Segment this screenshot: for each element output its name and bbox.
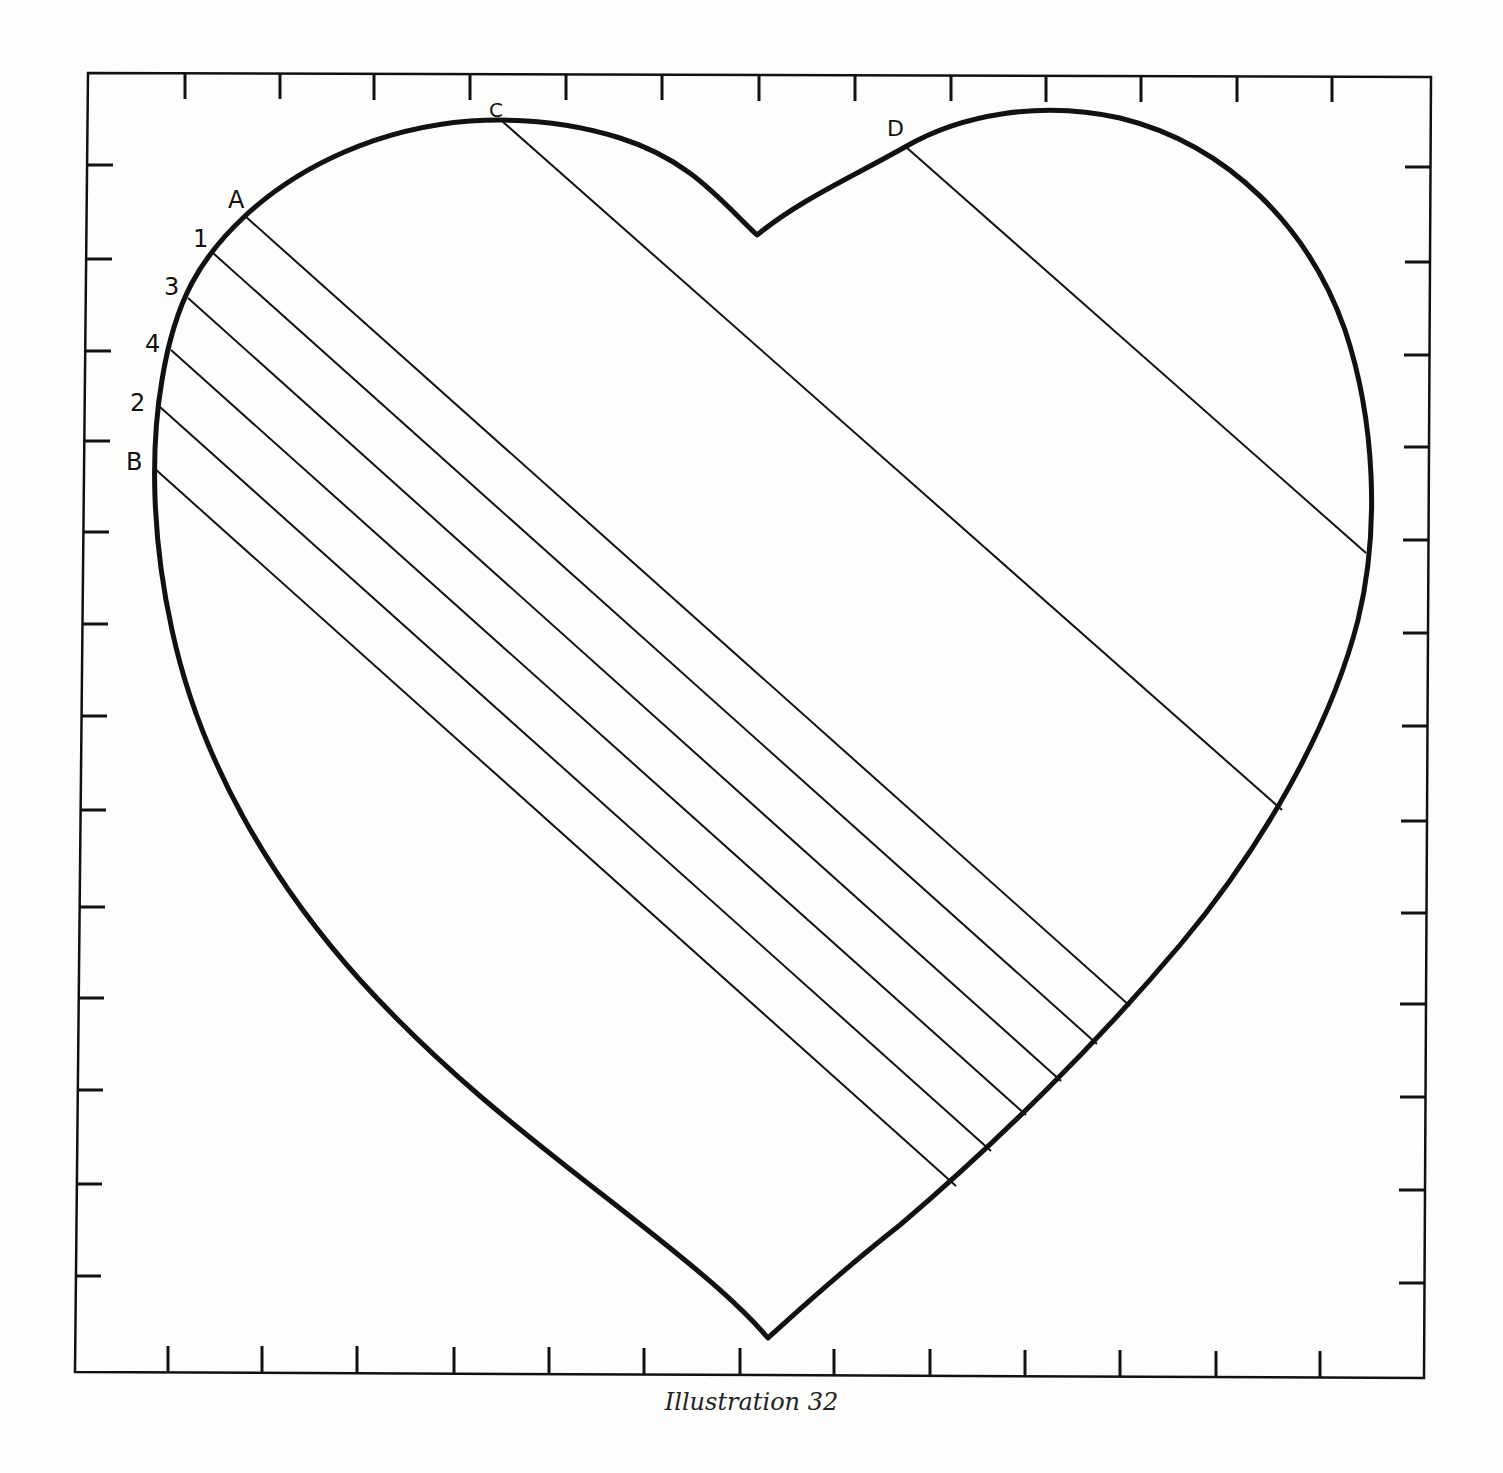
label-B: B — [126, 448, 142, 476]
figure-caption: Illustration 32 — [0, 1388, 1503, 1416]
line-1 — [213, 253, 1097, 1044]
line-2 — [160, 407, 991, 1151]
label-C: C — [489, 98, 503, 122]
label-2: 2 — [130, 389, 145, 417]
label-4: 4 — [145, 330, 160, 358]
heart-diagram: A 1 3 4 2 B C D — [0, 0, 1503, 1473]
line-4 — [171, 350, 1026, 1115]
frame-border — [75, 73, 1431, 1378]
line-D — [906, 147, 1366, 553]
label-A: A — [228, 186, 245, 214]
diagonal-lines — [154, 122, 1366, 1186]
line-C — [503, 122, 1282, 810]
label-3: 3 — [164, 273, 179, 301]
line-3 — [188, 298, 1061, 1081]
line-B — [154, 468, 956, 1186]
label-1: 1 — [193, 225, 208, 253]
label-D: D — [887, 116, 904, 141]
line-A — [245, 216, 1130, 1006]
heart-outline — [155, 110, 1372, 1338]
